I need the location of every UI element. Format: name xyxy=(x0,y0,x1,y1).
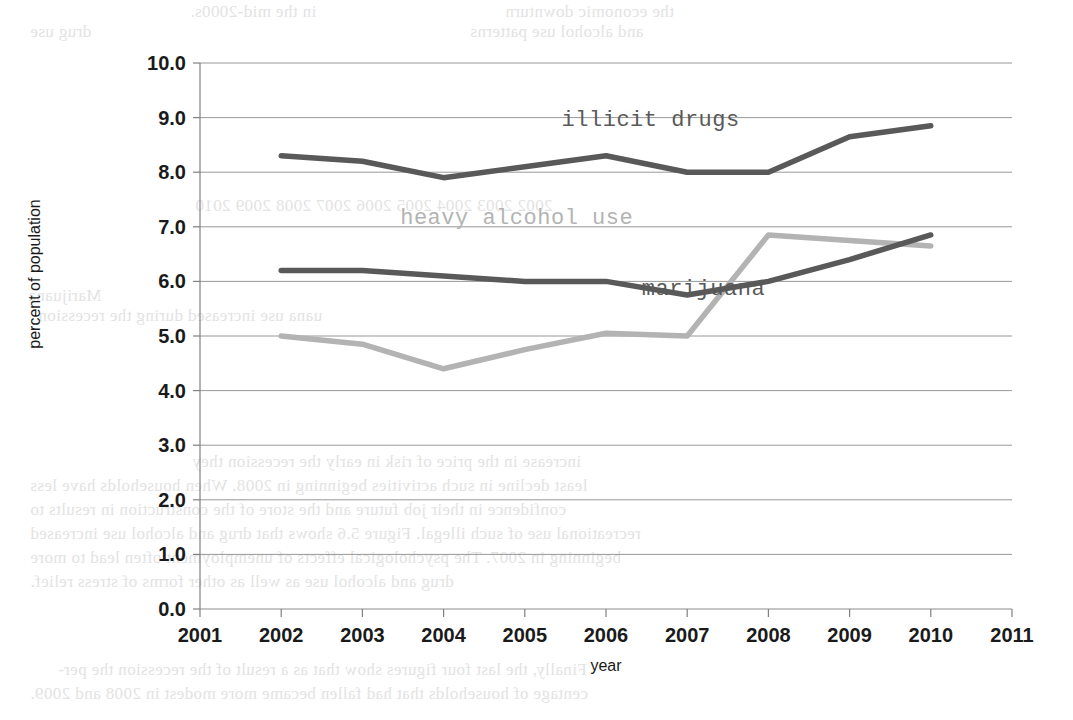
y-axis-tick-label: 3.0 xyxy=(158,434,186,456)
series-line-heavy-alcohol-use xyxy=(281,235,931,369)
y-axis-tick-label: 8.0 xyxy=(158,161,186,183)
x-axis-tick-label: 2002 xyxy=(259,624,304,646)
x-axis-tick-label: 2008 xyxy=(746,624,791,646)
y-axis-tick-label: 9.0 xyxy=(158,107,186,129)
x-axis-tick-label: 2007 xyxy=(665,624,710,646)
x-axis-tick-label: 2010 xyxy=(909,624,954,646)
y-axis-tick-label: 5.0 xyxy=(158,325,186,347)
y-axis-title: percent of population xyxy=(26,199,43,348)
series-label-illicit-drugs: illicit drugs xyxy=(562,108,740,133)
y-axis-tick-label: 1.0 xyxy=(158,543,186,565)
series-label-marijuana: marijuana xyxy=(642,277,765,302)
y-axis-tick-label: 4.0 xyxy=(158,380,186,402)
x-axis-tick-label: 2009 xyxy=(827,624,872,646)
x-axis-tick-label: 2001 xyxy=(178,624,223,646)
y-axis-tick-label: 2.0 xyxy=(158,489,186,511)
series-line-marijuana xyxy=(281,235,931,295)
chart-canvas: 0.01.02.03.04.05.06.07.08.09.010.0200120… xyxy=(0,0,1073,720)
x-axis-tick-label: 2004 xyxy=(421,624,466,646)
x-axis-title: year xyxy=(590,657,622,674)
y-axis-tick-label: 7.0 xyxy=(158,216,186,238)
x-axis-tick-label: 2005 xyxy=(503,624,548,646)
series-label-heavy-alcohol-use: heavy alcohol use xyxy=(400,206,633,231)
x-axis-tick-label: 2011 xyxy=(990,624,1033,646)
x-axis-tick-label: 2003 xyxy=(340,624,385,646)
y-axis-tick-label: 6.0 xyxy=(158,270,186,292)
y-axis-tick-label: 0.0 xyxy=(158,598,186,620)
line-chart: 0.01.02.03.04.05.06.07.08.09.010.0200120… xyxy=(0,0,1073,720)
y-axis-tick-label: 10.0 xyxy=(147,52,186,74)
series-line-illicit-drugs xyxy=(281,126,931,178)
x-axis-tick-label: 2006 xyxy=(584,624,629,646)
